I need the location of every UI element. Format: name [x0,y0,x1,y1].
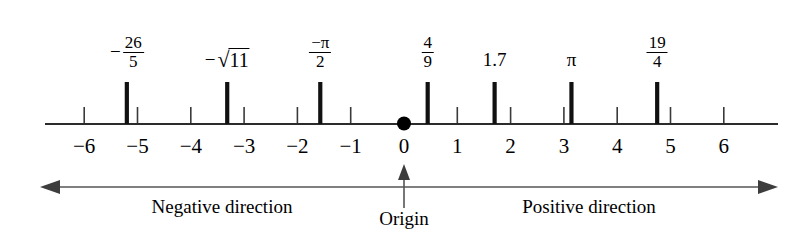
value-label-neg-pi-over-2: −π2 [309,34,331,70]
value-label-one-point-seven: 1.7 [483,50,507,70]
value-label-pi: π [567,50,577,70]
negative-direction-label: Negative direction [152,197,293,216]
axis-tick-label: 1 [452,136,463,157]
axis-tick-label: −4 [180,136,202,157]
direction-arrow-bar [40,180,778,194]
axis-tick-label: 0 [399,136,410,157]
axis-tick-label: 4 [612,136,623,157]
axis-tick-label: 6 [719,136,730,157]
axis-tick-label: 2 [505,136,516,157]
value-label-nineteen-fourths: 194 [647,34,668,70]
axis-tick-label: −1 [340,136,362,157]
origin-pointer [398,164,410,208]
positive-direction-label: Positive direction [522,197,656,216]
axis-tick-label: −5 [126,136,148,157]
axis-tick-label: 5 [665,136,676,157]
axis-tick-label: −6 [73,136,95,157]
value-label-four-ninths: 49 [421,34,434,70]
value-bars-group [127,82,657,124]
origin-label: Origin [379,209,429,228]
arrow-left-icon [40,180,60,194]
value-label-neg-26-over-5: −265 [110,34,144,70]
value-label-neg-sqrt-11: −√11 [205,48,250,71]
axis-tick-label: −3 [233,136,255,157]
axis-tick-label: 3 [559,136,570,157]
number-line-figure: −6−5−4−3−2−10123456 −265−√11−π2491.7π194… [0,0,803,234]
axis-tick-label: −2 [286,136,308,157]
arrow-up-icon [398,164,410,180]
origin-dot [397,117,411,131]
arrow-right-icon [758,180,778,194]
